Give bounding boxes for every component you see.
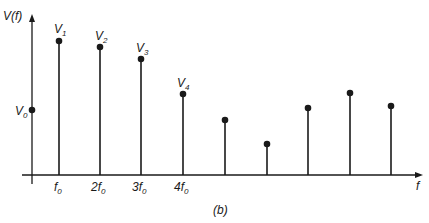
label-v2: V2 (95, 29, 108, 45)
tick-4f0: 4f0 (174, 180, 189, 196)
tick-f0: f0 (54, 180, 62, 196)
label-v1: V1 (54, 22, 66, 38)
y-axis-label: V(f) (3, 9, 22, 23)
label-v3: V3 (136, 41, 149, 57)
stem-v0-dot (30, 108, 35, 113)
stems (30, 39, 394, 176)
tick-3f0: 3f0 (132, 180, 147, 196)
label-v4: V4 (177, 76, 190, 92)
tick-2f0: 2f0 (90, 180, 106, 196)
x-axis-arrow-icon (415, 172, 423, 178)
label-v0: V0 (15, 104, 28, 120)
y-axis-arrow-icon (29, 14, 35, 22)
x-axis-label: f (416, 179, 421, 193)
figure-caption: (b) (213, 203, 228, 217)
spectrum-diagram: V(f) f V0 V1 V2 V3 V4 f0 2f0 3f0 4f0 (b) (0, 0, 429, 223)
